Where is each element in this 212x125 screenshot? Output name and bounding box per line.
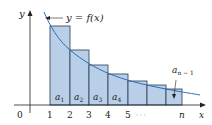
tick-dots: · · · [136, 111, 146, 118]
y-axis-label: y [18, 8, 25, 19]
tick-1: 1 [47, 110, 53, 120]
y-axis-arrow-icon [28, 10, 33, 16]
tick-5: 5 [125, 110, 131, 120]
tick-3: 3 [86, 110, 92, 120]
label-an-1: an − 1 [172, 65, 194, 76]
origin-label: 0 [17, 110, 23, 120]
integral-test-figure: y x 0 1 2 3 4 5 · · · n a1 a2 a3 a4 an −… [0, 0, 212, 125]
x-axis-label: x [199, 110, 204, 120]
tick-4: 4 [105, 110, 111, 120]
curve-label: y = f(x) [65, 12, 104, 23]
tick-2: 2 [67, 110, 73, 120]
x-tick-labels: 1 2 3 4 5 · · · n [47, 110, 185, 120]
x-axis-arrow-icon [200, 103, 206, 108]
tick-n: n [179, 110, 185, 120]
